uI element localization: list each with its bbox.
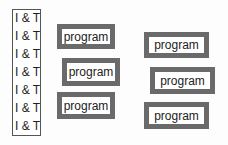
program-label: program	[64, 99, 109, 113]
i-and-t-label: I & T	[15, 101, 40, 115]
program-box: program	[62, 58, 120, 86]
i-and-t-label: I & T	[15, 83, 40, 97]
program-label: program	[154, 109, 199, 123]
program-box: program	[57, 24, 115, 49]
program-box: program	[150, 67, 215, 94]
program-box: program	[144, 102, 209, 129]
program-label: program	[154, 38, 199, 52]
program-label: program	[69, 65, 114, 79]
program-label: program	[64, 30, 109, 44]
i-and-t-label: I & T	[15, 47, 40, 61]
i-and-t-label: I & T	[15, 29, 40, 43]
i-and-t-column: I & T I & T I & T I & T I & T I & T I & …	[12, 9, 41, 136]
i-and-t-label: I & T	[15, 65, 40, 79]
program-box: program	[57, 92, 115, 119]
program-box: program	[144, 32, 209, 58]
program-label: program	[160, 74, 205, 88]
i-and-t-label: I & T	[15, 11, 40, 25]
i-and-t-label: I & T	[15, 119, 40, 133]
